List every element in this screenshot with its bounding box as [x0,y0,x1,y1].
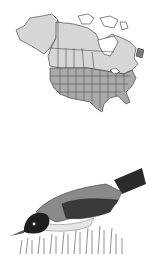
bird-wing [62,199,118,219]
range-map-svg [14,8,144,120]
usa-region [50,68,136,112]
newfoundland [136,48,144,58]
caption [4,266,148,273]
range-map [14,8,144,120]
bird-svg [6,160,148,255]
bird-illustration [6,160,148,255]
bird-beak [10,230,24,236]
canada-region [48,22,138,74]
bird-eye [33,223,36,226]
